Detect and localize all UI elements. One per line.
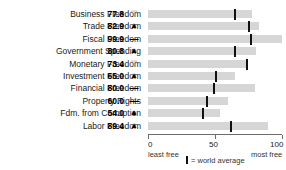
indicator-value: 82.9 — [98, 20, 124, 32]
chart-title-sliver: ECONOMIC FREEDOM INDICATORS — [0, 0, 286, 5]
indicator-value: 99.9 — [98, 33, 124, 45]
trend-up-icon: ▲ — [128, 70, 140, 82]
world-average-marker — [246, 59, 248, 70]
value-bar — [148, 60, 246, 68]
axis-min-label: least free — [148, 150, 179, 159]
value-bar — [148, 97, 228, 105]
indicator-value: 77.8 — [98, 8, 124, 20]
indicator-value: 89.4 — [98, 120, 124, 132]
world-average-marker — [234, 9, 236, 20]
trend-down-icon: ▽ — [128, 8, 140, 20]
trend-flat-icon: — — [128, 33, 140, 45]
bar-track — [148, 84, 282, 92]
world-average-marker-icon — [186, 156, 188, 164]
trend-down-icon: ▽ — [128, 58, 140, 70]
bar-track — [148, 72, 282, 80]
axis-max-label: most free — [251, 150, 282, 159]
bar-track — [148, 10, 282, 18]
world-average-marker — [230, 121, 232, 132]
indicator-value: 54.0 — [98, 107, 124, 119]
trend-up-icon: ▲ — [128, 120, 140, 132]
axis-tick — [215, 135, 216, 139]
bar-track — [148, 122, 282, 130]
bar-track — [148, 47, 282, 55]
value-bar — [148, 10, 252, 18]
indicator-value: 80.8 — [98, 45, 124, 57]
value-bar — [148, 47, 256, 55]
axis-tick-label: 100 — [270, 140, 283, 150]
world-average-marker — [248, 21, 250, 32]
bar-track — [148, 22, 282, 30]
trend-up-icon: ▲ — [128, 45, 140, 57]
value-bar — [148, 84, 255, 92]
legend-label: = world average — [191, 156, 245, 165]
axis-tick — [282, 135, 283, 139]
trend-up-icon: ▲ — [128, 20, 140, 32]
axis-tick-label: 50 — [209, 140, 218, 150]
economic-freedom-chart: ECONOMIC FREEDOM INDICATORS Business Fre… — [0, 0, 286, 170]
value-bar — [148, 122, 268, 130]
world-average-marker — [206, 96, 208, 107]
trend-flat-icon: — — [128, 82, 140, 94]
world-average-marker — [234, 46, 236, 57]
trend-flat-icon: — — [128, 95, 140, 107]
world-average-marker — [250, 34, 252, 45]
bar-track — [148, 35, 282, 43]
world-average-marker — [202, 108, 204, 119]
value-bar — [148, 72, 235, 80]
bar-track — [148, 109, 282, 117]
trend-up-icon: ▲ — [128, 107, 140, 119]
indicator-value: 80.0 — [98, 82, 124, 94]
indicator-value: 65.0 — [98, 70, 124, 82]
axis-tick — [148, 135, 149, 139]
bar-track — [148, 60, 282, 68]
x-axis: 050100least freemost free — [148, 134, 282, 141]
bar-track — [148, 97, 282, 105]
indicator-value: 60.0 — [98, 95, 124, 107]
world-average-marker — [215, 71, 217, 82]
world-average-marker — [213, 83, 215, 94]
value-bar — [148, 109, 220, 117]
axis-tick-label: 0 — [148, 140, 152, 150]
chart-title-text: ECONOMIC FREEDOM INDICATORS — [0, 0, 286, 2]
value-bar — [148, 35, 282, 43]
legend: = world average — [186, 156, 245, 166]
indicator-value: 73.4 — [98, 58, 124, 70]
value-bar — [148, 22, 259, 30]
plot-area — [148, 8, 282, 134]
